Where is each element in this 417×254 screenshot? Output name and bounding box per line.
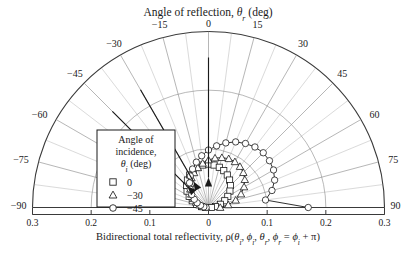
circle-marker: [271, 177, 277, 183]
angle-tick-label-0: 0: [206, 18, 211, 29]
arrow-incidence-0-head: [205, 178, 212, 187]
circle-marker: [242, 140, 248, 146]
circle-marker: [186, 180, 192, 186]
triangle-marker: [241, 176, 248, 183]
circle-marker: [223, 140, 229, 146]
angle-tick-label-45: 45: [337, 68, 347, 79]
triangle-marker: [218, 154, 225, 161]
x-axis-label: Bidirectional total reflectivity, ρ(θi, …: [96, 231, 320, 247]
angle-tick-label-30: 30: [298, 38, 308, 49]
legend-title-line: Angle of: [118, 134, 154, 145]
legend-title-line: incidence,: [116, 146, 157, 157]
circle-marker: [193, 159, 199, 165]
legend-entry-label: −30: [127, 190, 143, 201]
circle-marker: [252, 144, 258, 150]
angle-tick-label--30: −30: [106, 38, 122, 49]
circle-marker: [305, 204, 311, 210]
angle-tick-label--45: −45: [67, 68, 83, 79]
angle-tick-label--90: −90: [11, 200, 27, 211]
radial-spoke-30: [209, 55, 297, 207]
polar-reflectivity-chart: 0.30.20.100.10.20.3−90−75−60−45−30−15015…: [0, 0, 417, 254]
bottom-axis-tick-label: 0.1: [144, 218, 156, 228]
square-marker: [110, 179, 116, 185]
circle-marker: [260, 150, 266, 156]
circle-marker: [262, 197, 268, 203]
bottom-axis-tick-label: 0.2: [320, 218, 332, 228]
triangle-marker: [240, 183, 247, 190]
bottom-axis-tick-label: 0.1: [261, 218, 273, 228]
angle-tick-label--75: −75: [13, 154, 29, 165]
circle-marker: [110, 205, 117, 212]
angle-tick-label--60: −60: [32, 109, 48, 120]
circle-marker: [198, 153, 204, 159]
radial-spoke-82.5: [209, 185, 383, 208]
angle-tick-label--15: −15: [152, 19, 168, 30]
radial-spoke-22.5: [209, 45, 276, 208]
legend-entry-label: −45: [127, 203, 143, 214]
circle-marker: [213, 143, 219, 149]
bottom-axis-tick-label: 0.2: [85, 218, 97, 228]
triangle-marker: [237, 190, 244, 197]
angle-tick-label-60: 60: [370, 109, 380, 120]
circle-marker: [270, 167, 276, 173]
figure-root: 0.30.20.100.10.20.3−90−75−60−45−30−15015…: [0, 0, 417, 254]
bottom-axis-tick-label: 0.3: [379, 218, 391, 228]
angle-tick-label-90: 90: [391, 200, 401, 211]
circle-marker: [232, 139, 238, 145]
legend-entry-label: 0: [127, 177, 132, 188]
bottom-axis-tick-label: 0.3: [27, 218, 39, 228]
angle-tick-label-75: 75: [388, 154, 398, 165]
angle-tick-label-15: 15: [252, 19, 262, 30]
radial-spoke-67.5: [209, 140, 372, 207]
circle-marker: [269, 187, 275, 193]
circle-marker: [189, 166, 195, 172]
bottom-axis-tick-label: 0: [206, 218, 211, 228]
circle-marker: [266, 158, 272, 164]
